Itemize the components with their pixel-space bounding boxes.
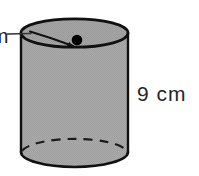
height-dimension-label: 9 cm	[137, 83, 187, 104]
radius-dimension-label: m	[0, 25, 10, 46]
top-face-center-dot	[72, 35, 83, 46]
cylinder-body	[21, 33, 128, 167]
cylinder-figure: 9 cm m	[0, 0, 199, 176]
radius-leader-line	[7, 34, 31, 35]
